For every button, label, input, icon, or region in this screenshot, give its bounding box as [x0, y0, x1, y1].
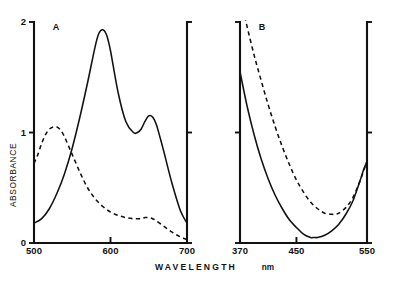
curve-b-solid: [240, 72, 367, 238]
curves-group: [34, 30, 187, 240]
x-tick-label-600: 600: [103, 245, 119, 256]
x-axis-unit: nm: [262, 263, 274, 272]
panel-letter-b: B: [259, 22, 266, 32]
figure-canvas: 012500600700A370450550BABSORBANCEWAVELEN…: [0, 0, 395, 285]
panel-b: 370450550B: [232, 0, 375, 256]
curve-a-dashed: [34, 127, 187, 240]
curve-b-dashed: [240, 0, 367, 214]
x-tick-label-500: 500: [26, 245, 42, 256]
y-axis-title: ABSORBANCE: [8, 143, 18, 207]
absorbance-spectra-figure: 012500600700A370450550BABSORBANCEWAVELEN…: [0, 0, 395, 285]
curves-group: [240, 0, 367, 238]
x-tick-label-550: 550: [359, 245, 375, 256]
x-axis-title: WAVELENGTH: [155, 262, 237, 272]
x-tick-label-700: 700: [179, 245, 195, 256]
panel-letter-a: A: [53, 22, 60, 32]
panel-a: 012500600700A: [21, 16, 195, 256]
y-tick-label-1: 1: [21, 127, 27, 138]
y-tick-label-2: 2: [21, 16, 26, 27]
x-tick-label-370: 370: [232, 245, 248, 256]
x-tick-label-450: 450: [289, 245, 305, 256]
